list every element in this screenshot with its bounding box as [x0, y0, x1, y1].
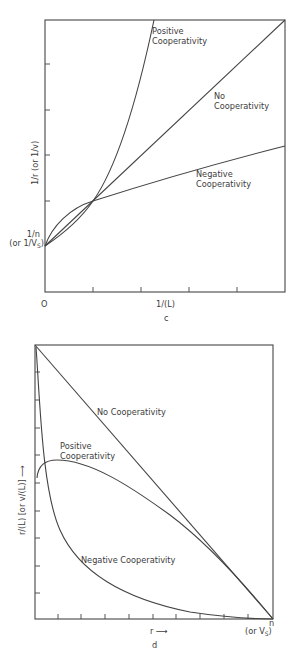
plot-c [45, 20, 285, 292]
plot-d-positive-label-line2: Cooperativity [60, 452, 115, 462]
plot-c-no-label: No Cooperativity [214, 92, 269, 111]
plot-c-origin-label: O [41, 300, 47, 310]
plot-d-negative-label: Negative Cooperativity [81, 556, 175, 566]
plot-c-intercept-line2: (or 1/VS) [9, 239, 44, 251]
plot-d-no-label: No Cooperativity [97, 408, 166, 418]
plot-d-end-label: (or VS) [245, 627, 272, 639]
plot-c-x-axis-label: 1/(L) [156, 300, 175, 310]
plot-c-negative-cooperativity-curve [45, 146, 285, 246]
plot-c-y-ticks [45, 64, 50, 201]
plot-d [35, 345, 273, 619]
plot-c-y-axis-label: 1/r (or 1/v) [30, 141, 40, 185]
plot-c-no-cooperativity-line [45, 20, 285, 246]
plot-c-positive-label: Positive Cooperativity [152, 27, 207, 46]
plot-c-no-label-line2: Cooperativity [214, 102, 269, 112]
plot-c-x-ticks [93, 287, 237, 292]
plot-d-panel-letter: d [152, 641, 157, 651]
plot-d-positive-label: Positive Cooperativity [60, 442, 115, 461]
plot-c-frame [45, 20, 285, 292]
plot-c-positive-label-line2: Cooperativity [152, 37, 207, 47]
plot-d-x-ticks [58, 614, 248, 619]
plot-c-positive-cooperativity-curve [45, 20, 154, 246]
plot-d-y-axis-label: r/(L) [or v/(L)] ⟶ [17, 465, 27, 535]
plot-c-negative-label: Negative Cooperativity [196, 170, 251, 189]
plot-c-panel-letter: c [164, 314, 169, 324]
plot-d-x-axis-label: r ⟶ [150, 627, 168, 637]
plot-c-negative-label-line2: Cooperativity [196, 180, 251, 190]
